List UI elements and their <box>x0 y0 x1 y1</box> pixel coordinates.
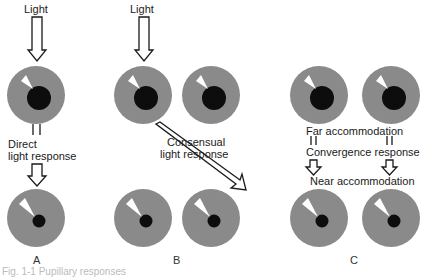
eye-b-bottom-left <box>114 189 172 247</box>
panel-b <box>114 17 246 247</box>
panel-c-caption: C <box>350 254 358 266</box>
eye-c-top-left <box>290 66 348 124</box>
eye-b-top-left <box>114 66 172 124</box>
panel-a-caption: A <box>33 254 40 266</box>
near-arrow-icon <box>306 160 397 175</box>
panel-a-response-label-2: light response <box>8 150 77 162</box>
connector-lines-icon <box>311 136 392 145</box>
figure-caption: Fig. 1-1 Pupillary responses <box>2 266 126 277</box>
panel-a-response-label-1: Direct <box>8 138 37 150</box>
light-arrow-icon <box>28 17 46 61</box>
eye-c-bottom-left <box>290 189 348 247</box>
panel-a-light-label: Light <box>24 3 48 15</box>
panel-b-light-label: Light <box>130 3 154 15</box>
light-arrow-icon <box>135 17 153 61</box>
panel-b-response-label-2: light response <box>160 148 229 160</box>
panel-c-near-label: Near accommodation <box>310 175 415 187</box>
panel-c-convergence-label: Convergence response <box>306 146 420 158</box>
eye-b-top-right <box>182 66 240 124</box>
connector-lines-icon <box>33 124 40 135</box>
eye-c-bottom-right <box>362 189 420 247</box>
panel-b-response-label-1: Consensual <box>167 136 225 148</box>
eye-b-bottom-right <box>182 189 240 247</box>
panel-a <box>7 17 65 247</box>
eye-a-bottom <box>7 189 65 247</box>
panel-b-caption: B <box>173 254 180 266</box>
panel-c-far-label: Far accommodation <box>306 125 403 137</box>
eye-c-top-right <box>362 66 420 124</box>
eye-a-top <box>7 66 65 124</box>
response-arrow-icon <box>28 164 46 186</box>
